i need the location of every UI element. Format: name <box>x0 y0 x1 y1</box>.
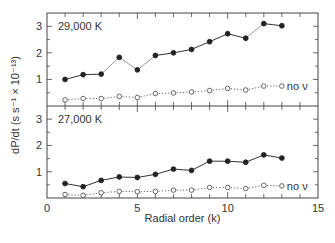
data-point-filled <box>63 77 68 82</box>
data-point-open <box>280 84 285 89</box>
data-point-filled <box>261 152 266 157</box>
data-point-open <box>280 184 285 189</box>
panel-title: 27,000 K <box>58 113 103 125</box>
y-axis-label: dP/dt (s s⁻¹ × 10⁻¹³) <box>4 0 26 243</box>
panel-title: 29,000 K <box>58 20 103 32</box>
data-point-filled <box>189 168 194 173</box>
data-point-open <box>171 91 176 96</box>
data-point-filled <box>63 181 68 186</box>
data-point-open <box>207 88 212 93</box>
data-point-open <box>63 192 68 197</box>
data-point-open <box>262 183 267 188</box>
y-tick-label: 2 <box>36 47 42 59</box>
data-point-filled <box>207 159 212 164</box>
data-point-open <box>135 189 140 194</box>
y-tick-label: 1 <box>36 73 42 85</box>
data-point-open <box>243 186 248 191</box>
data-point-open <box>225 185 230 190</box>
data-point-open <box>135 95 140 100</box>
data-point-filled <box>99 72 104 77</box>
data-point-open <box>81 193 86 198</box>
data-point-open <box>262 84 267 89</box>
data-point-filled <box>117 55 122 60</box>
panel-top: 12329,000 Kno ν <box>36 13 318 106</box>
data-point-open <box>153 91 158 96</box>
data-point-filled <box>243 160 248 165</box>
data-point-filled <box>243 36 248 41</box>
data-point-filled <box>135 67 140 72</box>
data-point-filled <box>153 172 158 177</box>
data-point-open <box>171 188 176 193</box>
y-tick-label: 1 <box>36 166 42 178</box>
data-point-filled <box>171 167 176 172</box>
data-point-open <box>243 88 248 93</box>
data-point-open <box>207 185 212 190</box>
data-point-open <box>63 98 68 103</box>
data-point-filled <box>279 156 284 161</box>
data-point-filled <box>81 184 86 189</box>
y-tick-label: 3 <box>36 20 42 32</box>
series-annotation: no ν <box>287 180 308 192</box>
data-point-open <box>117 94 122 99</box>
data-point-filled <box>189 47 194 52</box>
data-point-filled <box>207 39 212 44</box>
data-point-filled <box>99 178 104 183</box>
x-axis-label: Radial order (k) <box>47 212 318 224</box>
data-point-filled <box>153 53 158 58</box>
panel-bottom: 12327,000 Kno ν <box>36 106 318 198</box>
data-point-open <box>81 96 86 101</box>
data-point-filled <box>81 72 86 77</box>
data-point-filled <box>261 21 266 26</box>
data-point-filled <box>225 31 230 36</box>
y-tick-label: 3 <box>36 113 42 125</box>
data-point-open <box>117 189 122 194</box>
data-point-filled <box>171 50 176 55</box>
data-point-filled <box>135 175 140 180</box>
series-annotation: no ν <box>287 80 308 92</box>
data-point-open <box>99 190 104 195</box>
data-point-open <box>225 86 230 91</box>
data-point-open <box>99 96 104 101</box>
data-point-filled <box>117 175 122 180</box>
y-axis-label-text: dP/dt (s s⁻¹ × 10⁻¹³) <box>9 56 22 154</box>
y-tick-label: 2 <box>36 139 42 151</box>
chart-canvas: 12329,000 Kno ν12327,000 Kno ν051015 <box>0 0 335 243</box>
data-point-open <box>189 188 194 193</box>
data-point-open <box>153 189 158 194</box>
data-point-filled <box>279 23 284 28</box>
data-point-open <box>189 90 194 95</box>
data-point-filled <box>225 159 230 164</box>
